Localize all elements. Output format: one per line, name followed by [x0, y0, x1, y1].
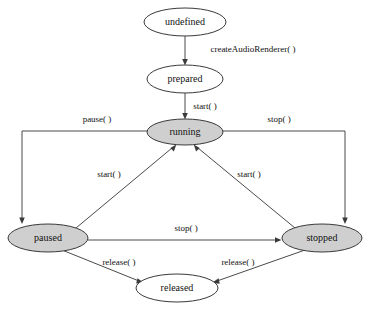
edge-label-create-audio-renderer: createAudioRenderer( ) — [210, 44, 295, 54]
state-node-running[interactable]: running — [147, 119, 223, 145]
state-node-paused-label: paused — [34, 232, 62, 243]
edge-label-pause: pause( ) — [83, 114, 112, 124]
edge-label-start-stopped: start( ) — [237, 169, 261, 179]
edge-undefined-to-prepared: createAudioRenderer( ) — [182, 36, 295, 66]
edge-label-release-stopped: release( ) — [221, 257, 254, 267]
audio-renderer-state-diagram: createAudioRenderer( ) start( ) pause( )… — [0, 0, 368, 319]
state-node-undefined-label: undefined — [165, 16, 205, 27]
state-node-paused[interactable]: paused — [8, 224, 88, 252]
edge-prepared-to-running: start( ) — [182, 93, 217, 120]
edge-label-release-paused: release( ) — [102, 257, 135, 267]
figure-caption — [0, 308, 368, 319]
state-node-undefined[interactable]: undefined — [144, 8, 226, 36]
edge-stopped-to-running: start( ) — [194, 144, 295, 228]
edge-label-stop-paused: stop( ) — [174, 223, 197, 233]
edge-paused-to-running: start( ) — [76, 144, 176, 228]
state-node-running-label: running — [169, 126, 200, 137]
edge-running-to-paused: pause( ) — [19, 114, 147, 224]
state-diagram-container: createAudioRenderer( ) start( ) pause( )… — [0, 0, 368, 319]
edge-label-start-paused: start( ) — [97, 169, 121, 179]
state-node-stopped[interactable]: stopped — [282, 224, 362, 252]
state-node-released[interactable]: released — [136, 274, 218, 302]
edge-paused-to-released: release( ) — [62, 250, 144, 284]
edge-paused-to-stopped: stop( ) — [88, 223, 282, 243]
edge-stopped-to-released: release( ) — [212, 250, 305, 284]
state-node-prepared-label: prepared — [168, 73, 203, 84]
state-node-prepared[interactable]: prepared — [147, 65, 223, 93]
edge-label-stop-running: stop( ) — [267, 114, 290, 124]
edge-label-start-prepared: start( ) — [193, 101, 217, 111]
state-node-released-label: released — [161, 282, 194, 293]
state-node-stopped-label: stopped — [306, 232, 337, 243]
